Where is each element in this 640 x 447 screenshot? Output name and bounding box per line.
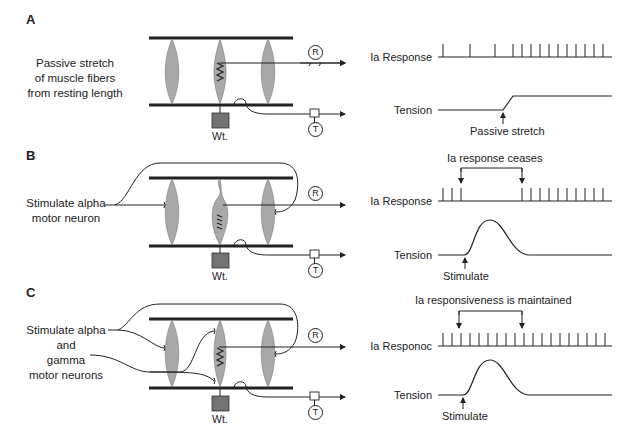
panel-b-bracket [461,168,522,183]
panel-b-ia-trace [438,188,612,201]
ia-response-label: Ia Response [342,195,432,207]
panel-b-description: Stimulate alpha motor neuron [20,196,112,226]
panel-label-a: A [26,12,35,27]
tension-label: Tension [342,249,432,261]
panel-c-tension-trace [438,360,612,409]
panel-a-description: Passive stretch of muscle fibers from re… [20,56,130,101]
receptor-r-icon: R [308,328,323,343]
ia-response-label: Ia Responoc [342,340,432,352]
panel-c-bracket [459,311,522,328]
receptor-r-icon: R [308,186,323,201]
desc-line: motor neurons [22,368,110,383]
weight-label: Wt. [212,413,228,425]
stimulate-annotation: Stimulate [442,410,488,422]
panel-c-apparatus [90,304,345,411]
panel-a-tension-trace [438,96,612,124]
desc-line: gamma [22,353,110,368]
bracket-annotation: Ia response ceases [447,152,542,164]
desc-line: of muscle fibers [20,71,130,86]
desc-line: and [22,338,110,353]
weight-label: Wt. [212,130,228,142]
panel-a-ia-trace [438,44,612,57]
desc-line: motor neuron [20,211,112,226]
desc-line: Stimulate alpha [22,323,110,338]
transducer-t-icon: T [308,122,323,137]
tension-label: Tension [342,104,432,116]
panel-c-description: Stimulate alpha and gamma motor neurons [22,323,110,383]
stimulate-annotation: Stimulate [443,270,489,282]
bracket-annotation: Ia responsiveness is maintained [415,294,572,306]
weight-label: Wt. [212,270,228,282]
passive-stretch-annotation: Passive stretch [470,125,545,137]
panel-label-b: B [26,148,35,163]
panel-c-ia-trace [438,333,612,346]
panel-label-c: C [26,285,35,300]
tension-label: Tension [342,389,432,401]
panel-b-tension-trace [438,220,612,269]
desc-line: Stimulate alpha [20,196,112,211]
receptor-r-icon: R [308,45,323,60]
panel-b-apparatus [105,163,345,268]
desc-line: Passive stretch [20,56,130,71]
transducer-t-icon: T [308,263,323,278]
transducer-t-icon: T [308,405,323,420]
desc-line: from resting length [20,86,130,101]
ia-response-label: Ia Response [342,51,432,63]
